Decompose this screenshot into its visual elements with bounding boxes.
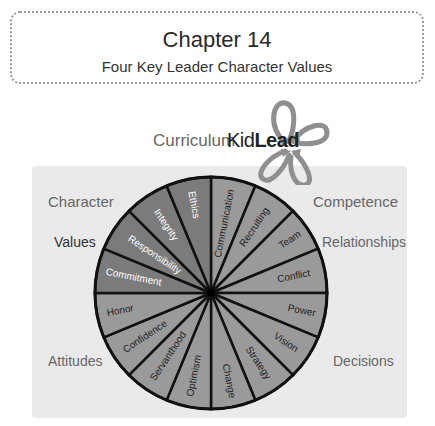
leadership-wheel: CommunicationRecruitingTeamConflictPower… — [0, 0, 435, 426]
wheel-hub — [207, 289, 215, 297]
